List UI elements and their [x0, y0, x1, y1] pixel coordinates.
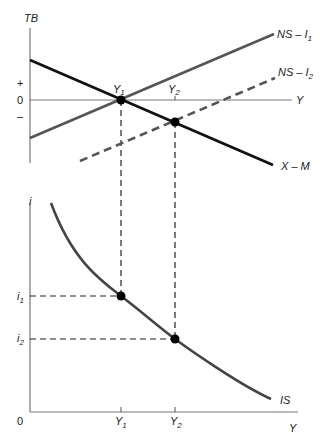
i-axis-label: i	[29, 195, 32, 207]
is-point-i2	[171, 335, 180, 344]
top-panel: TB + 0 – Y Y1 Y2 NS – I1 NS – I2 X – M	[17, 12, 314, 339]
tb-axis-label: TB	[24, 12, 38, 24]
ns-i1-line	[30, 34, 274, 138]
bottom-y-axis-label: Y	[289, 422, 297, 434]
i1-label: i1	[17, 290, 24, 305]
y2-label-top: Y2	[168, 83, 180, 97]
x-m-line	[30, 60, 273, 165]
ns-i1-label: NS – I1	[277, 28, 312, 43]
is-curve-label: IS	[280, 394, 291, 406]
i2-label: i2	[17, 332, 24, 347]
x-m-label: X – M	[280, 160, 311, 172]
equilibrium-point-y2	[171, 118, 180, 127]
top-y-axis-label: Y	[296, 94, 304, 106]
is-curve	[51, 203, 271, 399]
y1-label-bottom: Y1	[115, 415, 127, 430]
ns-i2-label: NS – I2	[278, 66, 314, 81]
is-point-i1	[117, 292, 126, 301]
plus-label: +	[17, 77, 23, 89]
bottom-panel: i i1 i2 0 Y1 Y2 Y IS	[17, 195, 298, 434]
origin-label: 0	[17, 415, 23, 427]
open-economy-is-diagram: TB + 0 – Y Y1 Y2 NS – I1 NS – I2 X – M i…	[0, 0, 321, 446]
minus-label: –	[17, 110, 24, 122]
y2-label-bottom: Y2	[170, 415, 182, 430]
zero-label: 0	[17, 94, 23, 106]
y1-label-top: Y1	[113, 83, 125, 97]
